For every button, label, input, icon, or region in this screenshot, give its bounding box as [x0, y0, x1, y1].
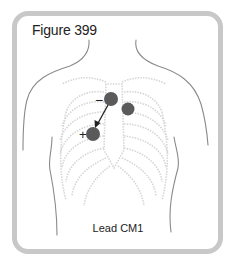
electrode-negative — [104, 92, 118, 106]
figure-caption: Lead CM1 — [0, 222, 230, 234]
negative-sign: − — [95, 92, 103, 108]
left-torso-outline — [49, 137, 57, 235]
right-torso-outline — [170, 137, 179, 232]
electrode-ground — [122, 103, 135, 116]
right-shoulder-outline — [136, 40, 208, 145]
electrode-positive — [86, 127, 100, 141]
figure-title: Figure 399 — [32, 22, 97, 38]
positive-sign: + — [79, 127, 87, 142]
